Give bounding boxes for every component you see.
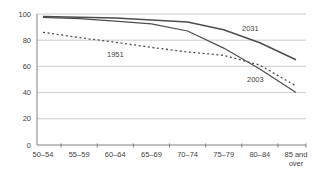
y-tick-label: 80 bbox=[23, 36, 31, 45]
y-tick-label: 40 bbox=[23, 88, 31, 97]
x-category-label: 65–69 bbox=[141, 150, 162, 159]
x-category-label: 50–54 bbox=[33, 150, 54, 159]
y-tick-label: 100 bbox=[18, 10, 31, 19]
x-category-label: 80–84 bbox=[249, 150, 270, 159]
series-label-2003: 2003 bbox=[247, 75, 264, 84]
series-label-1951: 1951 bbox=[107, 50, 124, 59]
y-tick-label: 0 bbox=[27, 141, 31, 150]
x-category-label: 70–74 bbox=[177, 150, 198, 159]
x-category-label: 85 andover bbox=[285, 150, 308, 168]
x-category-label: 55–59 bbox=[69, 150, 90, 159]
x-category-label: 75–79 bbox=[213, 150, 234, 159]
series-label-2031: 2031 bbox=[242, 24, 259, 33]
line-chart: 02040608010050–5455–5960–6465–6970–7475–… bbox=[0, 0, 314, 180]
x-category-label: 60–64 bbox=[105, 150, 126, 159]
y-tick-label: 20 bbox=[23, 114, 31, 123]
chart-canvas: 02040608010050–5455–5960–6465–6970–7475–… bbox=[0, 0, 314, 180]
y-tick-label: 60 bbox=[23, 62, 31, 71]
